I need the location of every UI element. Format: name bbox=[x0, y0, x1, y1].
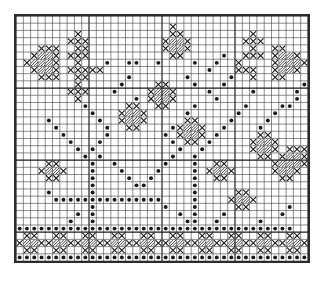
cross-stitch-symbol bbox=[228, 168, 234, 174]
filled-dot-symbol bbox=[164, 133, 168, 137]
cross-stitch-symbol bbox=[177, 247, 183, 253]
filled-dot-symbol bbox=[61, 198, 65, 202]
cross-stitch-symbol bbox=[148, 89, 154, 95]
cross-stitch-symbol bbox=[294, 247, 300, 253]
filled-dot-symbol bbox=[200, 255, 204, 259]
cross-stitch-symbol bbox=[258, 247, 264, 253]
cross-stitch-symbol bbox=[287, 247, 293, 253]
filled-dot-symbol bbox=[113, 198, 117, 202]
cross-stitch-symbol bbox=[119, 118, 125, 124]
cross-stitch-symbol bbox=[192, 240, 198, 246]
filled-dot-symbol bbox=[91, 111, 95, 115]
cross-stitch-symbol bbox=[272, 53, 278, 59]
filled-dot-symbol bbox=[120, 83, 124, 87]
cross-stitch-symbol bbox=[301, 60, 307, 66]
filled-dot-symbol bbox=[32, 255, 36, 259]
cross-stitch-symbol bbox=[228, 247, 234, 253]
cross-stitch-symbol bbox=[82, 46, 88, 52]
cross-stitch-symbol bbox=[287, 175, 293, 181]
cross-stitch-symbol bbox=[68, 53, 74, 59]
filled-dot-symbol bbox=[134, 227, 138, 231]
filled-dot-symbol bbox=[193, 176, 197, 180]
filled-dot-symbol bbox=[83, 255, 87, 259]
filled-dot-symbol bbox=[222, 54, 226, 58]
cross-stitch-symbol bbox=[53, 74, 59, 80]
cross-stitch-symbol bbox=[287, 233, 293, 239]
cross-stitch-symbol bbox=[61, 233, 67, 239]
cross-stitch-symbol bbox=[236, 204, 242, 210]
filled-dot-symbol bbox=[134, 183, 138, 187]
filled-dot-symbol bbox=[200, 147, 204, 151]
filled-dot-symbol bbox=[164, 162, 168, 166]
cross-stitch-symbol bbox=[272, 67, 278, 73]
cross-stitch-symbol bbox=[207, 233, 213, 239]
cross-stitch-symbol bbox=[185, 240, 191, 246]
filled-dot-symbol bbox=[288, 227, 292, 231]
filled-dot-symbol bbox=[91, 212, 95, 216]
cross-stitch-symbol bbox=[17, 240, 23, 246]
cross-stitch-symbol bbox=[236, 67, 242, 73]
pattern-grid-canvas bbox=[16, 16, 308, 261]
filled-dot-symbol bbox=[134, 97, 138, 101]
filled-dot-symbol bbox=[127, 227, 131, 231]
cross-stitch-symbol bbox=[250, 67, 256, 73]
filled-dot-symbol bbox=[186, 111, 190, 115]
filled-dot-symbol bbox=[171, 155, 175, 159]
filled-dot-symbol bbox=[69, 255, 73, 259]
cross-stitch-symbol bbox=[243, 204, 249, 210]
cross-stitch-symbol bbox=[82, 74, 88, 80]
filled-dot-symbol bbox=[47, 191, 51, 195]
cross-stitch-symbol bbox=[53, 60, 59, 66]
filled-dot-symbol bbox=[259, 126, 263, 130]
filled-dot-symbol bbox=[98, 198, 102, 202]
filled-dot-symbol bbox=[32, 227, 36, 231]
filled-dot-symbol bbox=[295, 90, 299, 94]
cross-stitch-symbol bbox=[287, 146, 293, 152]
cross-stitch-symbol bbox=[294, 53, 300, 59]
filled-dot-symbol bbox=[186, 227, 190, 231]
cross-stitch-symbol bbox=[236, 247, 242, 253]
cross-stitch-symbol bbox=[53, 46, 59, 52]
filled-dot-symbol bbox=[156, 227, 160, 231]
filled-dot-symbol bbox=[244, 255, 248, 259]
cross-stitch-symbol bbox=[61, 247, 67, 253]
cross-stitch-symbol bbox=[272, 161, 278, 167]
cross-stitch-symbol bbox=[39, 240, 45, 246]
filled-dot-symbol bbox=[98, 155, 102, 159]
filled-dot-symbol bbox=[207, 68, 211, 72]
cross-stitch-symbol bbox=[134, 240, 140, 246]
filled-dot-symbol bbox=[215, 227, 219, 231]
cross-stitch-symbol bbox=[68, 89, 74, 95]
cross-stitch-symbol bbox=[243, 38, 249, 44]
filled-dot-symbol bbox=[83, 155, 87, 159]
cross-stitch-symbol bbox=[75, 46, 81, 52]
cross-stitch-symbol bbox=[236, 190, 242, 196]
filled-dot-symbol bbox=[273, 227, 277, 231]
cross-stitch-symbol bbox=[207, 247, 213, 253]
filled-dot-symbol bbox=[215, 133, 219, 137]
filled-dot-symbol bbox=[76, 212, 80, 216]
filled-dot-symbol bbox=[302, 255, 306, 259]
cross-stitch-symbol bbox=[75, 96, 81, 102]
cross-stitch-symbol bbox=[185, 38, 191, 44]
cross-stitch-symbol bbox=[75, 38, 81, 44]
filled-dot-symbol bbox=[47, 227, 51, 231]
cross-stitch-symbol bbox=[265, 154, 271, 160]
filled-dot-symbol bbox=[54, 126, 58, 130]
cross-stitch-symbol bbox=[258, 53, 264, 59]
filled-dot-symbol bbox=[120, 198, 124, 202]
filled-dot-symbol bbox=[280, 255, 284, 259]
filled-dot-symbol bbox=[273, 111, 277, 115]
cross-stitch-symbol bbox=[148, 233, 154, 239]
cross-stitch-symbol bbox=[82, 53, 88, 59]
filled-dot-symbol bbox=[91, 198, 95, 202]
cross-stitch-symbol bbox=[155, 240, 161, 246]
cross-stitch-symbol bbox=[53, 53, 59, 59]
cross-stitch-symbol bbox=[46, 161, 52, 167]
cross-stitch-symbol bbox=[134, 125, 140, 131]
filled-dot-symbol bbox=[193, 255, 197, 259]
filled-dot-symbol bbox=[280, 104, 284, 108]
cross-stitch-symbol bbox=[258, 38, 264, 44]
cross-stitch-symbol bbox=[155, 82, 161, 88]
filled-dot-symbol bbox=[98, 140, 102, 144]
